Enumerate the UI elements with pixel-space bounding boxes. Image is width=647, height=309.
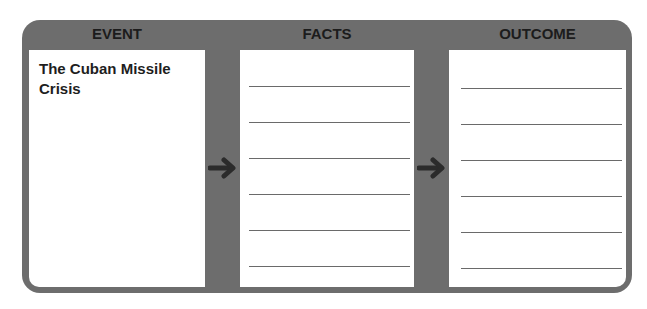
outcome-panel[interactable] bbox=[449, 50, 626, 287]
column-header-event: EVENT bbox=[29, 20, 205, 50]
facts-line-1[interactable] bbox=[249, 86, 410, 87]
outcome-line-3[interactable] bbox=[461, 160, 622, 161]
outcome-line-2[interactable] bbox=[461, 124, 622, 125]
facts-line-5[interactable] bbox=[249, 230, 410, 231]
outcome-line-4[interactable] bbox=[461, 196, 622, 197]
facts-panel[interactable] bbox=[240, 50, 414, 287]
column-header-facts: FACTS bbox=[240, 20, 414, 50]
outcome-line-6[interactable] bbox=[461, 268, 622, 269]
arrow-right-icon bbox=[208, 157, 238, 179]
facts-line-3[interactable] bbox=[249, 158, 410, 159]
column-header-outcome: OUTCOME bbox=[449, 20, 626, 50]
facts-line-2[interactable] bbox=[249, 122, 410, 123]
outcome-line-5[interactable] bbox=[461, 232, 622, 233]
outcome-line-1[interactable] bbox=[461, 88, 622, 89]
event-panel[interactable]: The Cuban Missile Crisis bbox=[29, 50, 205, 287]
facts-line-4[interactable] bbox=[249, 194, 410, 195]
arrow-right-icon bbox=[417, 157, 447, 179]
facts-line-6[interactable] bbox=[249, 266, 410, 267]
event-text: The Cuban Missile Crisis bbox=[39, 59, 199, 99]
